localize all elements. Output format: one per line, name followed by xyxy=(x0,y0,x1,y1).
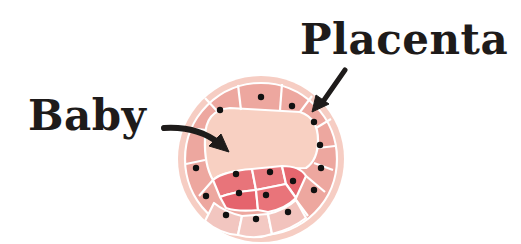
baby-label: Baby xyxy=(28,94,146,138)
placenta-label: Placenta xyxy=(300,18,508,62)
placenta-arrow xyxy=(322,70,345,103)
